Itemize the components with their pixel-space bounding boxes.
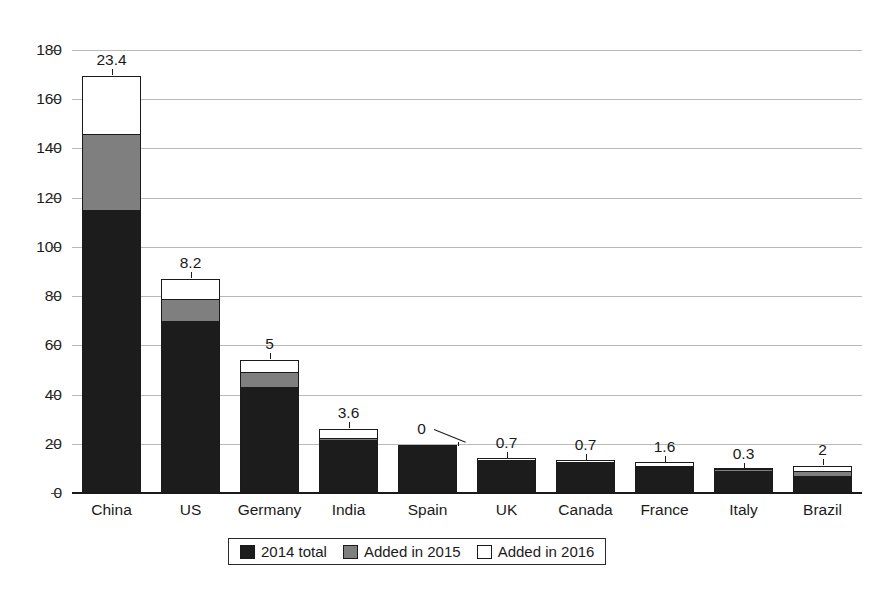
- legend-item[interactable]: 2014 total: [240, 543, 327, 560]
- bar-value-label: 3.6: [319, 405, 378, 421]
- bar-segment-2014-total[interactable]: [161, 321, 220, 493]
- bar-value-label: 1.6: [635, 439, 694, 455]
- bar-stack[interactable]: [556, 460, 615, 493]
- value-label-tick: [744, 463, 745, 469]
- y-tick-mark: [51, 247, 60, 248]
- y-tick-mark: [51, 50, 60, 51]
- bar-segment-added-2015[interactable]: [161, 299, 220, 321]
- bar-stack[interactable]: [82, 76, 141, 493]
- value-label-tick: [112, 69, 113, 75]
- bar-segment-2014-total[interactable]: [556, 463, 615, 493]
- bar-group[interactable]: [82, 50, 141, 493]
- bar-stack[interactable]: [635, 462, 694, 493]
- bar-value-label: 0.3: [714, 446, 773, 462]
- y-tick-mark: [51, 148, 60, 149]
- value-label-tick: [349, 422, 350, 428]
- bar-value-label: 23.4: [82, 52, 141, 68]
- bar-value-label: 2: [793, 442, 852, 458]
- x-axis-category-label: Germany: [230, 500, 309, 520]
- bar-group[interactable]: [793, 50, 852, 493]
- bar-group[interactable]: [556, 50, 615, 493]
- y-tick-mark: [51, 296, 60, 297]
- x-axis-category-label: Brazil: [783, 500, 862, 520]
- x-axis-labels: ChinaUSGermanyIndiaSpainUKCanadaFranceIt…: [72, 500, 862, 526]
- legend-item[interactable]: Added in 2015: [343, 543, 461, 560]
- bar-segment-2014-total[interactable]: [477, 461, 536, 493]
- bar-stack[interactable]: [319, 429, 378, 493]
- chart-legend: 2014 totalAdded in 2015Added in 2016: [228, 538, 606, 565]
- legend-item[interactable]: Added in 2016: [477, 543, 595, 560]
- bar-segment-2014-total[interactable]: [714, 471, 773, 493]
- x-axis-category-label: UK: [467, 500, 546, 520]
- y-tick-mark: [51, 493, 60, 494]
- value-label-tick: [191, 272, 192, 278]
- y-axis: 020406080100120140160180: [0, 50, 62, 493]
- bar-segment-2014-total[interactable]: [398, 445, 457, 493]
- bar-stack[interactable]: [398, 445, 457, 493]
- x-axis-category-label: China: [72, 500, 151, 520]
- bar-segment-added-2016[interactable]: [82, 76, 141, 134]
- bar-group[interactable]: [635, 50, 694, 493]
- x-axis-category-label: France: [625, 500, 704, 520]
- bar-segment-2014-total[interactable]: [82, 210, 141, 493]
- value-label-tick: [665, 456, 666, 462]
- bar-segment-added-2015[interactable]: [240, 372, 299, 387]
- bar-segment-added-2016[interactable]: [161, 279, 220, 299]
- x-axis-category-label: Canada: [546, 500, 625, 520]
- x-axis-category-label: US: [151, 500, 230, 520]
- bar-group[interactable]: [240, 50, 299, 493]
- bars-layer: 23.48.253.600.70.71.60.32: [72, 50, 862, 493]
- bar-value-label: 8.2: [161, 255, 220, 271]
- legend-swatch-white: [477, 545, 492, 559]
- value-leader-tick: [458, 442, 459, 446]
- bar-value-label: 0.7: [477, 435, 536, 451]
- bar-stack[interactable]: [477, 458, 536, 493]
- x-axis-category-label: India: [309, 500, 388, 520]
- bar-stack[interactable]: [240, 360, 299, 493]
- bar-value-label: 5: [240, 336, 299, 352]
- legend-swatch-black: [240, 545, 255, 559]
- bar-group[interactable]: [714, 50, 773, 493]
- bar-group[interactable]: [477, 50, 536, 493]
- value-label-tick: [586, 454, 587, 460]
- legend-label: Added in 2015: [364, 543, 461, 560]
- bar-segment-2014-total[interactable]: [793, 476, 852, 493]
- bar-stack[interactable]: [714, 468, 773, 493]
- value-label-tick: [270, 353, 271, 359]
- stacked-bar-chart: 020406080100120140160180 23.48.253.600.7…: [0, 0, 887, 592]
- y-tick-mark: [51, 444, 60, 445]
- legend-label: 2014 total: [261, 543, 327, 560]
- legend-label: Added in 2016: [498, 543, 595, 560]
- bar-segment-2014-total[interactable]: [319, 440, 378, 493]
- legend-swatch-gray: [343, 545, 358, 559]
- bar-stack[interactable]: [793, 466, 852, 493]
- bar-segment-added-2016[interactable]: [319, 429, 378, 438]
- y-tick-mark: [51, 395, 60, 396]
- bar-stack[interactable]: [161, 279, 220, 493]
- bar-value-label: 0: [392, 421, 451, 437]
- y-tick-mark: [51, 345, 60, 346]
- y-tick-mark: [51, 99, 60, 100]
- bar-segment-added-2016[interactable]: [240, 360, 299, 372]
- y-tick-mark: [51, 198, 60, 199]
- bar-segment-added-2015[interactable]: [82, 134, 141, 210]
- value-label-tick: [823, 459, 824, 465]
- bar-segment-2014-total[interactable]: [240, 387, 299, 493]
- bar-value-label: 0.7: [556, 437, 615, 453]
- x-axis-category-label: Spain: [388, 500, 467, 520]
- x-axis-category-label: Italy: [704, 500, 783, 520]
- value-label-tick: [507, 452, 508, 458]
- bar-segment-2014-total[interactable]: [635, 467, 694, 493]
